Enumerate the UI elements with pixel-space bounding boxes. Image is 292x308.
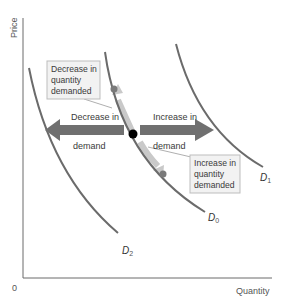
demand-shift-diagram: Price Quantity 0 D2 D0 D1 Decrease in qu… (0, 0, 292, 308)
x-axis-label: Quantity (236, 286, 270, 296)
increase-demand-arrow-shaft (140, 125, 195, 135)
decrease-qd-line1: Decrease in (51, 64, 97, 74)
increase-qd-line1: Increase in (194, 158, 236, 168)
curve-label-d1: D1 (260, 172, 271, 184)
decrease-qd-line3: demanded (51, 86, 92, 96)
curve-label-d2: D2 (122, 245, 133, 257)
increase-demand-label-1: Increase in (153, 112, 197, 122)
decrease-qd-leader (84, 99, 112, 108)
increase-qd-line3: demanded (194, 180, 235, 190)
increase-qd-line2: quantity (194, 169, 225, 179)
decrease-demand-label-2: demand (73, 141, 106, 151)
point-initial (129, 130, 138, 139)
decrease-qd-line2: quantity (51, 75, 82, 85)
decrease-demand-arrow-shaft (60, 125, 124, 135)
diagram-canvas: Price Quantity 0 D2 D0 D1 Decrease in qu… (0, 0, 292, 308)
y-axis-label: Price (9, 17, 19, 38)
point-upper (111, 86, 118, 93)
increase-demand-label-2: demand (153, 141, 186, 151)
point-lower (160, 171, 167, 178)
demand-curve-d1 (176, 44, 263, 167)
origin-label: 0 (12, 283, 17, 293)
decrease-demand-arrowhead (45, 119, 60, 141)
curve-label-d0: D0 (208, 212, 219, 224)
decrease-demand-label-1: Decrease in (71, 112, 119, 122)
